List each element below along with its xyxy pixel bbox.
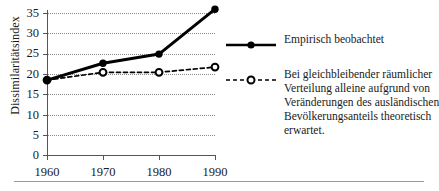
legend-label-empirical: Empirisch beobachtet [280,32,384,46]
legend-label-theoretical-line-0: Bei gleichbleibender räumlicher [284,67,439,81]
footer-divider [14,181,424,182]
legend-label-theoretical-line-1: Verteilung alleine aufgrund von [284,81,439,95]
legend-label-theoretical-line-4: erwartet. [284,123,439,137]
chart-legend: Empirisch beobachtet Bei gleichbleibende… [225,32,438,149]
legend-label-empirical-line-0: Empirisch beobachtet [284,32,384,46]
legend-label-theoretical-line-2: Veränderungen des ausländischen [284,95,439,109]
legend-marker-solid-line-filled-circle-icon [225,32,280,55]
legend-marker-dashed-line-open-circle-icon [225,67,280,90]
legend-entry-empirical: Empirisch beobachtet [225,32,438,55]
legend-label-theoretical: Bei gleichbleibender räumlicher Verteilu… [280,67,439,137]
legend-entry-theoretical: Bei gleichbleibender räumlicher Verteilu… [225,67,438,137]
series-canvas [0,0,225,175]
plot-area: Dissimilaritätsindex 35 30 25 20 15 10 5… [0,0,225,175]
legend-label-theoretical-line-3: Bevölkerungsanteils theoretisch [284,109,439,123]
